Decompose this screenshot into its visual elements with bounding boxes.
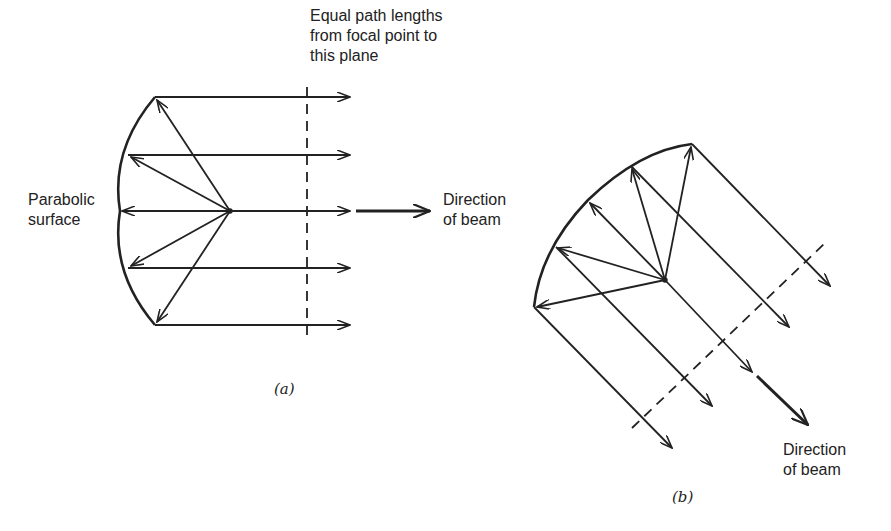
plane-label-a: Equal path lengths from focal point to t… bbox=[310, 6, 443, 66]
panel-label-b: (b) bbox=[672, 488, 693, 506]
plane-label-line-1: Equal path lengths bbox=[310, 6, 443, 26]
surface-label-a: Parabolic surface bbox=[28, 190, 95, 230]
beam-label-a: Direction of beam bbox=[443, 190, 506, 230]
beam-direction-arrow-b bbox=[757, 376, 808, 425]
beam-label-a-line-2: of beam bbox=[443, 210, 506, 230]
beam-label-b-line-2: of beam bbox=[783, 460, 846, 480]
equal-path-plane-b bbox=[632, 243, 825, 428]
panel-a bbox=[118, 87, 430, 341]
beam-label-b-line-1: Direction bbox=[783, 440, 846, 460]
panel-b bbox=[534, 144, 830, 448]
plane-label-line-3: this plane bbox=[310, 46, 443, 66]
parabolic-antenna-diagram bbox=[0, 0, 891, 531]
beam-label-b: Direction of beam bbox=[783, 440, 846, 480]
panel-label-a: (a) bbox=[274, 380, 295, 398]
beam-label-a-line-1: Direction bbox=[443, 190, 506, 210]
surface-label-line-1: Parabolic bbox=[28, 190, 95, 210]
surface-label-line-2: surface bbox=[28, 210, 95, 230]
plane-label-line-2: from focal point to bbox=[310, 26, 443, 46]
